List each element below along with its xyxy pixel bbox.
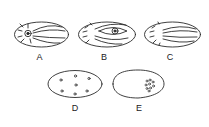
figure: A B C D E bbox=[0, 0, 209, 127]
diagram-canvas bbox=[0, 0, 209, 127]
panel-c-cell bbox=[145, 22, 201, 47]
panel-a-cell bbox=[15, 22, 69, 47]
panel-c-label: C bbox=[167, 53, 174, 62]
panel-e-label: E bbox=[136, 104, 142, 113]
panel-b-label: B bbox=[101, 53, 107, 62]
panel-b-cell bbox=[79, 22, 136, 47]
panel-d-label: D bbox=[72, 104, 79, 113]
panel-d-cell bbox=[48, 71, 102, 98]
panel-e-cell bbox=[113, 70, 164, 98]
panel-a-label: A bbox=[36, 53, 42, 62]
